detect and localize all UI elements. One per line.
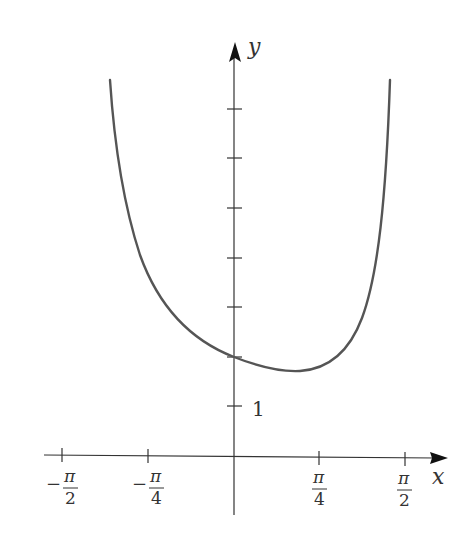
y-axis-label: y <box>247 34 261 59</box>
chart: y x 1 − π 2 − π 4 π 4 π 2 <box>0 0 472 540</box>
x-tick-label-neg-pi-over-4: − π 4 <box>132 466 164 508</box>
plot-area: y x 1 − π 2 − π 4 π 4 π 2 <box>0 0 472 540</box>
svg-text:−: − <box>132 473 147 494</box>
y-axis-arrow-icon <box>229 42 241 62</box>
x-tick-label-pi-over-4: π 4 <box>312 467 327 509</box>
x-axis-label: x <box>432 464 445 489</box>
x-axis <box>44 455 436 458</box>
y-tick-label-1: 1 <box>252 397 265 421</box>
svg-text:4: 4 <box>151 488 162 508</box>
x-axis-arrow-icon <box>430 452 448 464</box>
svg-text:−: − <box>46 473 61 494</box>
svg-text:2: 2 <box>65 488 76 508</box>
svg-text:2: 2 <box>399 490 410 510</box>
x-tick-label-pi-over-2: π 2 <box>397 468 412 510</box>
svg-text:π: π <box>312 467 325 487</box>
svg-text:π: π <box>397 468 410 488</box>
svg-text:4: 4 <box>314 489 325 509</box>
function-curve <box>110 80 390 371</box>
x-tick-label-neg-pi-over-2: − π 2 <box>46 466 78 508</box>
svg-text:π: π <box>63 466 76 486</box>
svg-text:π: π <box>149 466 162 486</box>
